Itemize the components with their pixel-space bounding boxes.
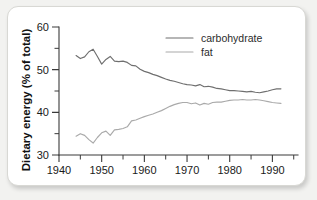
y-tick-label: 40	[37, 106, 49, 118]
chart-card: Dietary energy (% of total) 60 50 4	[7, 6, 306, 186]
y-axis-title: Dietary energy (% of total)	[20, 29, 32, 172]
y-axis-title-group: Dietary energy (% of total)	[20, 29, 32, 172]
line-chart: Dietary energy (% of total) 60 50 4	[8, 7, 305, 185]
x-tick-label: 1960	[132, 164, 156, 176]
x-tick-label: 1980	[217, 164, 241, 176]
x-tick-label: 1950	[89, 164, 113, 176]
y-axis-ticks	[52, 27, 59, 155]
y-axis-tick-labels: 60 50 40 30	[37, 21, 49, 161]
y-tick-label: 60	[37, 21, 49, 33]
series-lines	[76, 49, 281, 143]
legend-label-fat: fat	[201, 46, 213, 58]
series-line-fat	[76, 100, 281, 144]
x-axis-tick-labels: 1940 1950 1960 1970 1980 1990	[47, 164, 285, 176]
legend: carbohydrate fat	[166, 32, 262, 58]
screenshot-root: Dietary energy (% of total) 60 50 4	[0, 0, 317, 200]
y-tick-label: 30	[37, 149, 49, 161]
x-axis-ticks	[59, 155, 294, 162]
x-tick-label: 1990	[260, 164, 284, 176]
series-line-carbohydrate	[76, 49, 281, 93]
x-tick-label: 1970	[175, 164, 199, 176]
legend-label-carbohydrate: carbohydrate	[201, 32, 262, 44]
x-tick-label: 1940	[47, 164, 71, 176]
y-tick-label: 50	[37, 64, 49, 76]
